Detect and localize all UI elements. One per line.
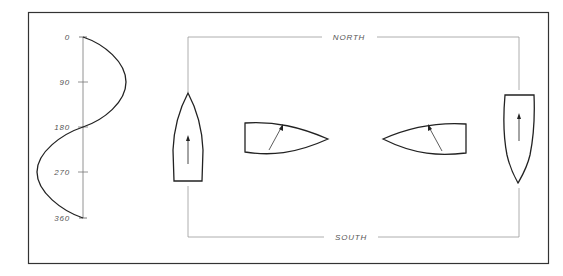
boat-4-south <box>504 95 534 183</box>
north-label: NORTH <box>333 33 365 42</box>
heading-sine-curve <box>37 37 126 218</box>
course-path: NORTH SOUTH <box>188 33 519 242</box>
arrow-icon <box>430 129 442 151</box>
boat-hull-icon <box>383 124 466 155</box>
boat-hull-icon <box>245 123 328 154</box>
tick-label-270: 270 <box>53 168 70 177</box>
tick-label-0: 0 <box>65 33 70 42</box>
boat-1-north <box>173 93 203 181</box>
sailing-diagram: 0 90 180 270 360 NORTH SOUTH <box>0 0 563 276</box>
south-label: SOUTH <box>335 233 367 242</box>
boat-3-west <box>383 124 466 155</box>
tick-label-180: 180 <box>54 123 70 132</box>
tick-label-90: 90 <box>60 78 71 87</box>
tick-label-360: 360 <box>54 214 70 223</box>
boat-2-east <box>245 123 328 154</box>
arrow-icon <box>269 128 281 150</box>
heading-axis: 0 90 180 270 360 <box>37 33 126 223</box>
